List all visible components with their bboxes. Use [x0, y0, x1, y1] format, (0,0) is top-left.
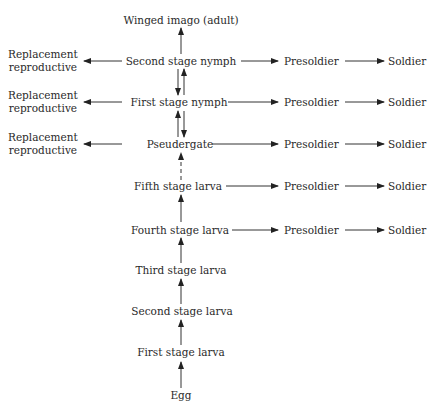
node-egg: Egg — [170, 389, 191, 401]
node-replacement-reproductive-3: Replacement reproductive — [8, 131, 78, 157]
node-soldier-5: Soldier — [388, 224, 426, 236]
node-presoldier-3: Presoldier — [284, 138, 339, 150]
rr-line2: reproductive — [8, 61, 78, 74]
node-soldier-3: Soldier — [388, 138, 426, 150]
node-presoldier-4: Presoldier — [284, 180, 339, 192]
rr-line1: Replacement — [8, 48, 78, 61]
rr-line1: Replacement — [8, 131, 78, 144]
node-presoldier-5: Presoldier — [284, 224, 339, 236]
node-replacement-reproductive-1: Replacement reproductive — [8, 48, 78, 74]
node-presoldier-1: Presoldier — [284, 55, 339, 67]
node-fourth-stage-larva: Fourth stage larva — [131, 224, 229, 236]
node-soldier-1: Soldier — [388, 55, 426, 67]
node-third-stage-larva: Third stage larva — [135, 264, 226, 276]
node-second-stage-nymph: Second stage nymph — [126, 55, 237, 67]
node-first-stage-nymph: First stage nymph — [131, 96, 228, 108]
node-second-stage-larva: Second stage larva — [131, 305, 232, 317]
node-winged-imago: Winged imago (adult) — [123, 14, 238, 26]
node-replacement-reproductive-2: Replacement reproductive — [8, 89, 78, 115]
rr-line2: reproductive — [8, 102, 78, 115]
node-soldier-4: Soldier — [388, 180, 426, 192]
rr-line2: reproductive — [8, 144, 78, 157]
node-pseudergate: Pseudergate — [147, 138, 214, 150]
node-fifth-stage-larva: Fifth stage larva — [134, 180, 222, 192]
rr-line1: Replacement — [8, 89, 78, 102]
node-first-stage-larva: First stage larva — [137, 346, 225, 358]
node-presoldier-2: Presoldier — [284, 96, 339, 108]
node-soldier-2: Soldier — [388, 96, 426, 108]
